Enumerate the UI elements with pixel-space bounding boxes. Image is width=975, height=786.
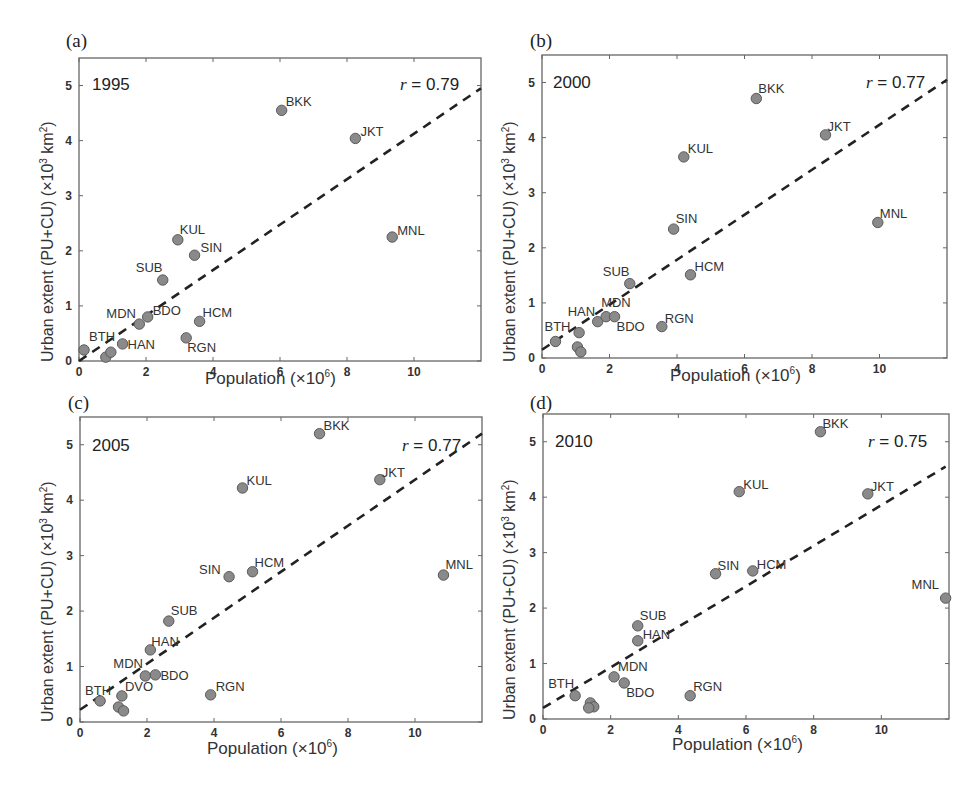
- y-tick-label: 5: [529, 435, 536, 449]
- point-label: BKK: [822, 416, 848, 431]
- y-axis-label: Urban extent (PU+CU) (×103 km2): [500, 479, 519, 720]
- panel-d: (d) 0246810012345BTHMDNBDOSUBHANRGNSINHC…: [0, 0, 975, 786]
- data-point: [940, 593, 950, 603]
- y-tick-label: 1: [529, 657, 536, 671]
- data-point: [583, 703, 593, 713]
- data-point: [633, 636, 643, 646]
- y-axis-label-unit: km: [501, 490, 518, 516]
- point-label: BDO: [626, 685, 654, 700]
- point-label: BTH: [548, 676, 574, 691]
- x-axis-label-text: Population (×10: [672, 735, 792, 754]
- y-axis-label-exponent: 3: [500, 516, 511, 522]
- year-label: 2010: [555, 432, 593, 452]
- data-point: [570, 691, 580, 701]
- x-tick-label: 2: [607, 723, 614, 737]
- y-tick-label: 2: [529, 601, 536, 615]
- r-value: = 0.75: [879, 432, 927, 451]
- point-label: RGN: [693, 679, 722, 694]
- plot-frame: [543, 414, 949, 719]
- point-label: HCM: [757, 557, 787, 572]
- y-tick-label: 3: [529, 546, 536, 560]
- point-label: MDN: [618, 659, 648, 674]
- scatter-plot: 0246810012345BTHMDNBDOSUBHANRGNSINHCMKUL…: [0, 0, 975, 786]
- y-axis-label-text: Urban extent (PU+CU) (×10: [501, 522, 518, 720]
- y-tick-label: 4: [529, 490, 536, 504]
- point-label: SIN: [718, 558, 740, 573]
- correlation-label: r = 0.75: [868, 432, 927, 452]
- point-label: JKT: [871, 479, 894, 494]
- y-axis-label-close: ): [501, 479, 518, 484]
- point-label: KUL: [743, 477, 768, 492]
- y-axis-label-unit-exponent: 2: [500, 485, 511, 491]
- r-symbol: r: [868, 432, 875, 451]
- point-label: HAN: [643, 627, 670, 642]
- regression-fit-line: [543, 467, 946, 708]
- point-label: SUB: [640, 608, 667, 623]
- x-tick-label: 0: [540, 723, 547, 737]
- x-axis-label: Population (×106): [672, 734, 803, 755]
- x-tick-label: 10: [875, 723, 889, 737]
- x-axis-label-close: ): [797, 735, 803, 754]
- x-tick-label: 8: [810, 723, 817, 737]
- y-tick-label: 0: [529, 712, 536, 726]
- point-label: MNL: [912, 577, 939, 592]
